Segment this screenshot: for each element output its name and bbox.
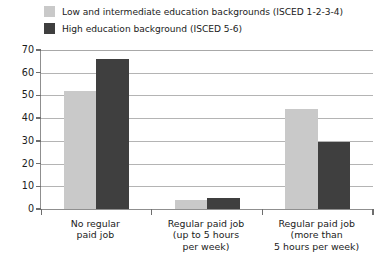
x-category-label-1: No regularpaid job: [40, 218, 151, 241]
y-tick-20: [36, 163, 41, 164]
gridline-60: [41, 73, 373, 74]
x-category-label-2-line-3: per week): [151, 241, 262, 252]
x-category-label-2: Regular paid job(up to 5 hoursper week): [151, 218, 262, 252]
x-tick-0: [41, 209, 42, 215]
legend-item-high: High education background (ISCED 5-6): [0, 20, 382, 37]
plot-area: [40, 50, 373, 210]
y-tick-30: [36, 140, 41, 141]
legend-swatch-high-icon: [44, 23, 55, 34]
x-axis-category-labels: No regularpaid jobRegular paid job(up to…: [40, 218, 372, 268]
chart-legend: Low and intermediate education backgroun…: [0, 0, 382, 37]
y-tick-label-0: 0: [8, 204, 34, 214]
x-tick-2: [262, 209, 263, 215]
y-tick-label-30: 30: [8, 136, 34, 146]
x-category-label-3-line-3: 5 hours per week): [261, 241, 372, 252]
y-tick-10: [36, 186, 41, 187]
x-category-label-3-line-1: Regular paid job: [261, 218, 372, 229]
y-tick-label-60: 60: [8, 68, 34, 78]
legend-swatch-low-intermediate-icon: [44, 6, 55, 17]
bar-group-3-series-2: [318, 142, 351, 209]
bar-group-1-series-1: [64, 91, 97, 209]
x-category-label-1-line-1: No regular: [40, 218, 151, 229]
y-tick-label-70: 70: [8, 45, 34, 55]
bar-group-3-series-1: [285, 109, 318, 209]
legend-label-high: High education background (ISCED 5-6): [62, 24, 242, 34]
bar-group-2-series-1: [175, 200, 208, 209]
y-tick-label-20: 20: [8, 159, 34, 169]
x-category-label-3-line-2: (more than: [261, 229, 372, 240]
gridline-70: [41, 50, 373, 51]
y-tick-label-50: 50: [8, 90, 34, 100]
x-category-label-2-line-1: Regular paid job: [151, 218, 262, 229]
y-tick-label-40: 40: [8, 113, 34, 123]
x-category-label-1-line-2: paid job: [40, 229, 151, 240]
y-tick-70: [36, 49, 41, 50]
bar-group-2-series-2: [207, 198, 240, 209]
x-tick-1: [151, 209, 152, 215]
bar-group-1-series-2: [96, 59, 129, 209]
y-tick-50: [36, 95, 41, 96]
y-tick-40: [36, 117, 41, 118]
x-category-label-3: Regular paid job(more than5 hours per we…: [261, 218, 372, 252]
y-tick-60: [36, 72, 41, 73]
x-category-label-2-line-2: (up to 5 hours: [151, 229, 262, 240]
x-tick-3: [372, 209, 373, 215]
y-tick-label-10: 10: [8, 181, 34, 191]
legend-item-low-intermediate: Low and intermediate education backgroun…: [0, 3, 382, 20]
y-axis-tick-labels: 010203040506070: [6, 50, 34, 209]
legend-label-low-intermediate: Low and intermediate education backgroun…: [62, 7, 343, 17]
